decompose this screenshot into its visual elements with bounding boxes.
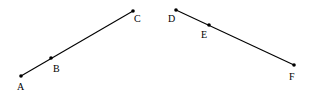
label-a: A	[17, 81, 25, 92]
point-b	[49, 56, 53, 60]
label-b: B	[53, 63, 60, 74]
label-c: C	[134, 13, 141, 24]
label-f: F	[289, 71, 295, 82]
point-d	[174, 8, 178, 12]
geometry-diagram: A B C D E F	[0, 0, 317, 94]
point-e	[207, 23, 211, 27]
segment-def	[176, 10, 294, 65]
point-a	[19, 74, 23, 78]
label-e: E	[201, 29, 207, 40]
label-d: D	[168, 13, 175, 24]
point-f	[292, 63, 296, 67]
segment-abc	[21, 11, 133, 76]
